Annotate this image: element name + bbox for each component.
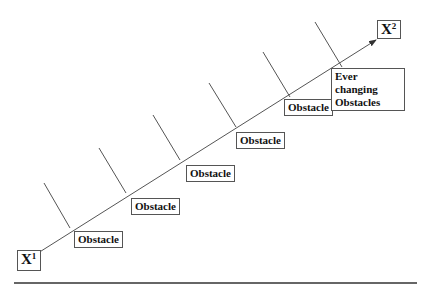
obstacle-label-4: Obstacle [236,132,285,149]
obstacle-label-3: Obstacle [186,165,235,182]
main-path-arrow [38,40,376,253]
end-node-x2: X2 [377,20,401,39]
obstacle-label-ever-changing: Ever changing Obstacles [331,68,405,111]
ever-changing-line-2: Obstacles [335,96,401,109]
start-node-superscript: 1 [32,251,37,261]
obstacle-label-2: Obstacle [131,198,180,215]
end-node-base: X [381,21,392,37]
start-node-x1: X1 [17,250,41,271]
obstacle-branch-5 [263,52,290,97]
obstacle-branch-4 [209,83,236,127]
obstacle-branch-3 [153,115,180,160]
obstacle-branch-6 [315,22,342,67]
obstacle-branch-1 [44,183,70,228]
obstacle-label-5: Obstacle [284,99,333,116]
start-node-base: X [21,251,32,267]
end-node-superscript: 2 [392,21,397,31]
diagram-canvas [0,0,425,291]
ever-changing-line-1: Ever changing [335,70,401,96]
obstacle-label-1: Obstacle [74,231,123,248]
obstacle-branch-2 [99,148,126,193]
